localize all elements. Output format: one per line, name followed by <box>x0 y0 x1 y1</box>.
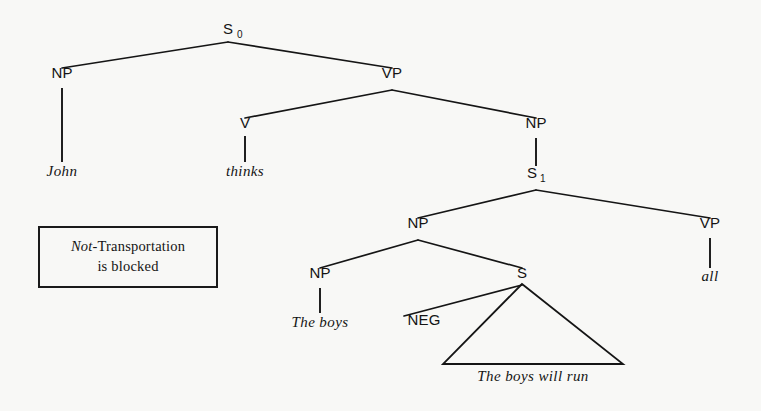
node-np-embedded: NP <box>407 214 428 231</box>
annotation-line-1-rest: -Transportation <box>92 238 185 254</box>
annotation-line-2: is blocked <box>97 257 158 277</box>
leaf-thinks: thinks <box>226 163 264 179</box>
node-np-object: NP <box>525 114 546 131</box>
branch-s0-to-vp-matrix <box>228 42 392 68</box>
annotation-box: Not-Transportation is blocked <box>38 226 218 288</box>
node-s1-subscript: 1 <box>540 173 546 184</box>
branch-s0-to-np-subject <box>62 42 228 68</box>
branch-s1-to-np-embedded <box>418 190 536 218</box>
leaf-the-boys-will-run: The boys will run <box>477 368 588 384</box>
branch-vp-matrix-to-np-object <box>392 90 536 118</box>
syntax-tree-diagram: S 0 NP VP V NP S 1 NP VP NP S NEG John t… <box>0 0 761 411</box>
node-s1: S 1 <box>527 164 546 184</box>
branch-vp-matrix-to-v <box>245 90 392 118</box>
leaf-all: all <box>701 268 718 284</box>
node-s0-label: S <box>223 20 233 37</box>
branch-np-embedded-to-s-relative <box>418 240 522 268</box>
node-s-relative: S <box>517 264 527 281</box>
branch-s1-to-vp-embedded <box>536 190 710 218</box>
annotation-emphasis: Not <box>71 238 93 254</box>
branch-np-embedded-to-np-inner <box>320 240 418 268</box>
node-neg: NEG <box>407 311 440 328</box>
tree-canvas: S 0 NP VP V NP S 1 NP VP NP S NEG John t… <box>0 0 761 411</box>
leaf-john: John <box>47 163 78 179</box>
node-np-subject: NP <box>51 64 72 81</box>
triangle-the-boys-will-run <box>443 284 623 364</box>
node-s0-subscript: 0 <box>237 29 243 40</box>
node-vp-matrix: VP <box>382 64 402 81</box>
node-vp-embedded: VP <box>700 214 720 231</box>
node-np-inner: NP <box>309 264 330 281</box>
node-s0: S 0 <box>223 20 243 40</box>
leaf-the-boys: The boys <box>292 314 349 330</box>
annotation-line-1: Not-Transportation <box>71 237 185 257</box>
node-v-matrix: V <box>240 114 250 131</box>
node-s1-label: S <box>527 164 537 181</box>
